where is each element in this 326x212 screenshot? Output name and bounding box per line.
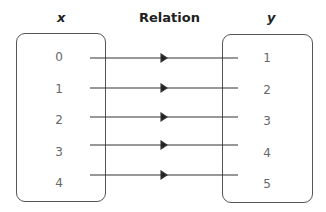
arrow-2-to-3 xyxy=(90,113,238,121)
arrow-4-to-5 xyxy=(90,171,238,179)
mapping-arrows xyxy=(0,0,326,212)
arrow-3-to-4 xyxy=(90,141,238,149)
arrow-0-to-1 xyxy=(90,54,238,62)
arrow-1-to-2 xyxy=(90,84,238,92)
